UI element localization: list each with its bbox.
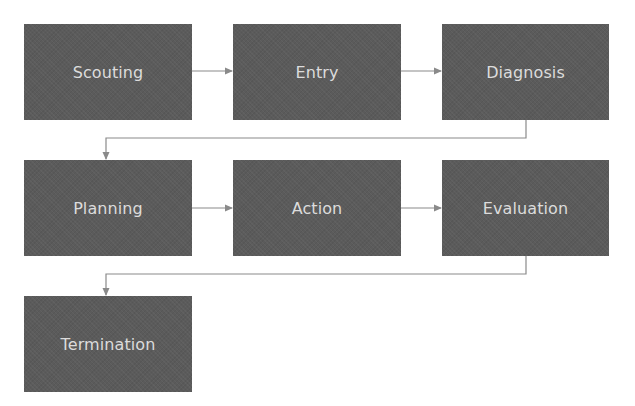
node-label: Termination [61,335,156,354]
node-label: Diagnosis [486,63,565,82]
arrow-diagnosis-to-planning [106,119,526,159]
arrow-evaluation-to-termination [106,255,526,295]
node-action: Action [233,160,401,256]
node-label: Planning [73,199,143,218]
node-termination: Termination [24,296,192,392]
node-label: Entry [295,63,338,82]
node-planning: Planning [24,160,192,256]
node-scouting: Scouting [24,24,192,120]
node-entry: Entry [233,24,401,120]
node-diagnosis: Diagnosis [442,24,609,120]
node-evaluation: Evaluation [442,160,609,256]
node-label: Action [292,199,343,218]
process-flow-diagram: Scouting Entry Diagnosis Planning Action… [0,0,635,406]
node-label: Scouting [73,63,144,82]
node-label: Evaluation [483,199,568,218]
